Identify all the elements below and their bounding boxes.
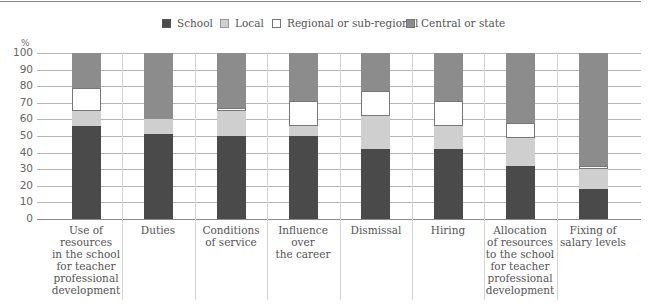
y-tick-label: 40: [0, 146, 33, 158]
gridline-y-80: [37, 86, 641, 87]
y-tick-label: 70: [0, 96, 33, 108]
x-label-line: professional: [484, 272, 556, 284]
bar-segment-local: [506, 138, 535, 166]
y-tick-label: 30: [0, 162, 33, 174]
gridline-y-70: [37, 103, 641, 104]
x-label-line: Conditions: [195, 224, 267, 236]
y-tick-label: 50: [0, 129, 33, 141]
legend-swatch-school: [162, 19, 171, 28]
bar-segment-school: [72, 126, 101, 219]
bar-segment-central-or-state: [434, 53, 463, 101]
y-tick-label: 0: [0, 212, 33, 224]
bar-segment-school: [434, 149, 463, 219]
bar-segment-regional-or-sub-regional: [434, 101, 463, 126]
bar-segment-regional-or-sub-regional: [506, 123, 535, 138]
bar-segment-regional-or-sub-regional: [579, 166, 608, 169]
x-label-line: over: [267, 236, 339, 248]
gridline-y-40: [37, 153, 641, 154]
x-label-line: of service: [195, 236, 267, 248]
gridline-y-60: [37, 119, 641, 120]
y-tick-label: 80: [0, 79, 33, 91]
x-category-label: Hiring: [412, 224, 484, 236]
category-separator: [195, 53, 196, 300]
gridline-y-30: [37, 169, 641, 170]
bar-segment-local: [579, 169, 608, 189]
x-label-line: Fixing of: [557, 224, 629, 236]
legend-swatch-regional: [272, 19, 281, 28]
bar-segment-central-or-state: [144, 53, 173, 119]
x-label-line: Dismissal: [340, 224, 412, 236]
bar-segment-regional-or-sub-regional: [72, 88, 101, 111]
legend-item-central: Central or state: [406, 17, 505, 29]
legend-label: Central or state: [421, 17, 505, 29]
x-category-label: Influenceoverthe career: [267, 224, 339, 260]
top-rule: [0, 1, 641, 2]
x-label-line: professional: [50, 272, 122, 284]
y-tick-label: 90: [0, 63, 33, 75]
gridline-y-0: [37, 219, 641, 220]
x-category-label: Duties: [122, 224, 194, 236]
x-category-label: Allocationof resourcesto the schoolfor t…: [484, 224, 556, 296]
bar-segment-school: [144, 134, 173, 219]
bar-segment-local: [144, 119, 173, 134]
gridline-y-50: [37, 136, 641, 137]
category-separator: [557, 53, 558, 300]
legend-label: Regional or sub-regional: [287, 17, 418, 29]
gridline-y-10: [37, 202, 641, 203]
x-category-label: Use of resourcesin the schoolfor teacher…: [50, 224, 122, 296]
x-label-line: for teacher: [484, 260, 556, 272]
bar-segment-regional-or-sub-regional: [289, 101, 318, 126]
x-label-line: of resources: [484, 236, 556, 248]
legend-item-school: School: [162, 17, 213, 29]
bar-segment-regional-or-sub-regional: [361, 91, 390, 116]
category-separator: [340, 53, 341, 300]
x-category-label: Conditionsof service: [195, 224, 267, 248]
y-tick-label: 100: [0, 46, 33, 58]
x-label-line: Influence: [267, 224, 339, 236]
legend-label: School: [177, 17, 213, 29]
y-tick-label: 60: [0, 112, 33, 124]
x-label-line: salary levels: [557, 236, 629, 248]
gridline-y-20: [37, 186, 641, 187]
bar-segment-central-or-state: [506, 53, 535, 123]
bar-segment-central-or-state: [217, 53, 246, 108]
bar-segment-central-or-state: [361, 53, 390, 91]
x-category-label: Fixing ofsalary levels: [557, 224, 629, 248]
bar-segment-central-or-state: [72, 53, 101, 88]
x-label-line: development: [50, 284, 122, 296]
x-label-line: in the school: [50, 248, 122, 260]
y-tick-label: 10: [0, 195, 33, 207]
bar-segment-local: [289, 126, 318, 136]
bar-segment-school: [289, 136, 318, 219]
bar-segment-local: [361, 116, 390, 149]
y-tick-label: 20: [0, 179, 33, 191]
legend-label: Local: [235, 17, 264, 29]
bar-segment-central-or-state: [579, 53, 608, 166]
legend-swatch-local: [220, 19, 229, 28]
x-label-line: Allocation: [484, 224, 556, 236]
x-label-line: the career: [267, 248, 339, 260]
legend-item-regional: Regional or sub-regional: [272, 17, 418, 29]
x-label-line: for teacher: [50, 260, 122, 272]
gridline-y-90: [37, 70, 641, 71]
category-separator: [122, 53, 123, 300]
x-category-label: Dismissal: [340, 224, 412, 236]
x-label-line: to the school: [484, 248, 556, 260]
legend-item-local: Local: [220, 17, 264, 29]
bar-segment-school: [361, 149, 390, 219]
x-label-line: Hiring: [412, 224, 484, 236]
bar-segment-school: [217, 136, 246, 219]
x-label-line: Duties: [122, 224, 194, 236]
x-label-line: Use of resources: [50, 224, 122, 248]
bar-segment-school: [579, 189, 608, 219]
category-separator: [412, 53, 413, 300]
bar-segment-local: [217, 111, 246, 136]
bar-segment-central-or-state: [289, 53, 318, 101]
bar-segment-local: [72, 111, 101, 126]
category-separator: [267, 53, 268, 300]
bar-segment-school: [506, 166, 535, 219]
x-label-line: development: [484, 284, 556, 296]
legend: School Local Regional or sub-regional Ce…: [0, 17, 660, 31]
bar-segment-regional-or-sub-regional: [217, 108, 246, 111]
gridline-y-100: [37, 53, 641, 54]
